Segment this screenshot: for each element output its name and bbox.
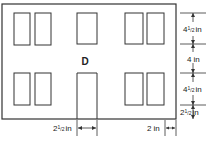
door xyxy=(77,73,97,119)
dim-bottom-offset: 2in xyxy=(147,124,160,133)
window-upper-2 xyxy=(35,13,51,45)
building-outline xyxy=(2,4,176,119)
window-lower-1 xyxy=(14,73,30,105)
building-elevation-diagram: D 41/2in 4in 41/2in 21/2in xyxy=(0,0,209,142)
dim-bottom-door: 21/2in xyxy=(53,124,72,133)
upper-windows xyxy=(14,13,164,45)
lower-windows xyxy=(14,73,164,119)
dim-right-1: 41/2in xyxy=(183,25,202,34)
window-lower-5 xyxy=(147,73,164,105)
dim-right-3: 41/2in xyxy=(183,85,202,94)
window-upper-1 xyxy=(14,13,30,45)
window-lower-4 xyxy=(125,73,143,105)
right-dimension-labels: 41/2in 4in 41/2in 21/2in xyxy=(180,25,202,117)
window-upper-3 xyxy=(77,13,97,44)
window-lower-2 xyxy=(35,73,51,105)
window-upper-4 xyxy=(125,13,143,44)
dim-right-4: 21/2in xyxy=(180,108,199,117)
window-upper-5 xyxy=(147,13,164,44)
dim-right-2: 4in xyxy=(187,55,200,64)
building-label: D xyxy=(81,56,88,67)
